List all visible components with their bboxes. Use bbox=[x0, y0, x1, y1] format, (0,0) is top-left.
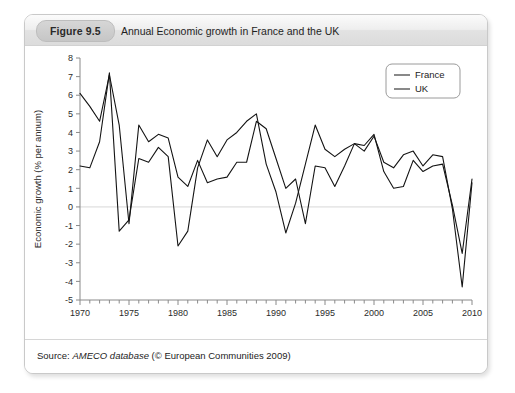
series-line-uk bbox=[80, 73, 472, 287]
x-axis-tick-label: 1975 bbox=[119, 308, 139, 318]
x-axis-tick-label: 1970 bbox=[70, 308, 90, 318]
chart-area: 876543210-1-2-3-4-5197019751980198519901… bbox=[25, 46, 487, 340]
source-note: Source: AMECO database (© European Commu… bbox=[37, 350, 291, 361]
y-axis-tick-label: 5 bbox=[68, 109, 73, 119]
series-line-france bbox=[80, 75, 472, 254]
legend-label-france: France bbox=[415, 69, 445, 80]
figure-footer: Source: AMECO database (© European Commu… bbox=[25, 339, 487, 373]
source-database: AMECO database bbox=[72, 350, 149, 361]
source-credit: (© European Communities 2009) bbox=[152, 350, 291, 361]
y-axis-tick-label: 4 bbox=[68, 128, 73, 138]
x-axis-tick-label: 1985 bbox=[217, 308, 237, 318]
y-axis-tick-label: 1 bbox=[68, 184, 73, 194]
figure-header: Figure 9.5 Annual Economic growth in Fra… bbox=[25, 15, 487, 46]
x-axis-tick-label: 1990 bbox=[266, 308, 286, 318]
y-axis-tick-label: 3 bbox=[68, 146, 73, 156]
y-axis-tick-label: 0 bbox=[68, 202, 73, 212]
x-axis-tick-label: 1980 bbox=[168, 308, 188, 318]
y-axis-tick-label: 2 bbox=[68, 165, 73, 175]
y-axis-tick-label: -1 bbox=[65, 221, 73, 231]
y-axis-tick-label: -5 bbox=[65, 295, 73, 305]
figure-number-badge: Figure 9.5 bbox=[36, 20, 115, 42]
figure-card: Figure 9.5 Annual Economic growth in Fra… bbox=[24, 14, 488, 374]
x-axis-tick-label: 2000 bbox=[364, 308, 384, 318]
x-axis-tick-label: 2005 bbox=[413, 308, 433, 318]
y-axis-title: Economic growth (% per annum) bbox=[32, 110, 43, 248]
y-axis-tick-label: -4 bbox=[65, 277, 73, 287]
y-axis-tick-label: 6 bbox=[68, 90, 73, 100]
y-axis-tick-label: 7 bbox=[68, 72, 73, 82]
y-axis-tick-label: -2 bbox=[65, 239, 73, 249]
source-prefix: Source: bbox=[37, 350, 70, 361]
y-axis-tick-label: -3 bbox=[65, 258, 73, 268]
figure-title: Annual Economic growth in France and the… bbox=[121, 15, 339, 46]
x-axis-tick-label: 2010 bbox=[462, 308, 482, 318]
economic-growth-line-chart: 876543210-1-2-3-4-5197019751980198519901… bbox=[25, 46, 488, 340]
y-axis-tick-label: 8 bbox=[68, 53, 73, 63]
x-axis-tick-label: 1995 bbox=[315, 308, 335, 318]
legend-label-uk: UK bbox=[415, 83, 429, 94]
